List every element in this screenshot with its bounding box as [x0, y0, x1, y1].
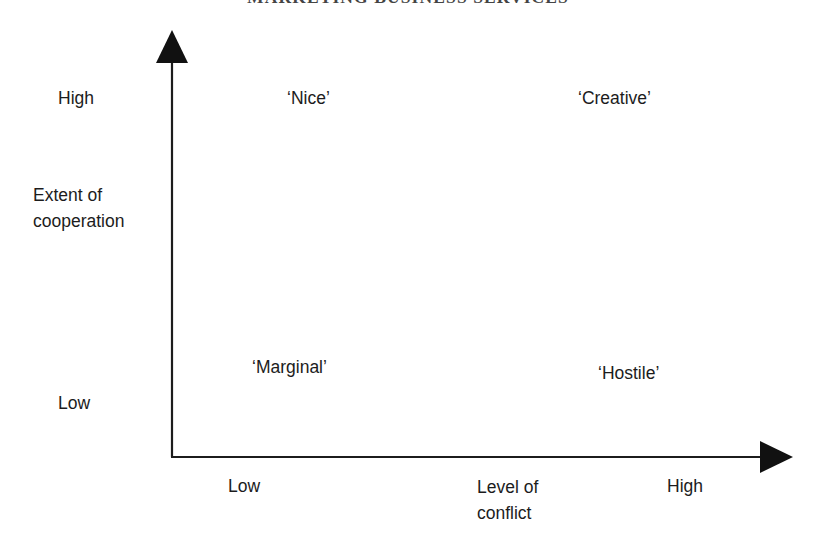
y-axis-title: Extent of cooperation — [33, 182, 124, 234]
diagram-canvas: MARKETING BUSINESS SERVICES High Extent … — [0, 0, 816, 556]
x-axis-arrow-icon — [760, 441, 793, 473]
quadrant-label-nice: ‘Nice’ — [287, 86, 330, 110]
quadrant-label-marginal: ‘Marginal’ — [252, 355, 327, 379]
y-axis-low-label: Low — [58, 390, 90, 416]
quadrant-label-hostile: ‘Hostile’ — [598, 361, 659, 385]
x-axis-high-label: High — [667, 473, 703, 499]
quadrant-label-creative: ‘Creative’ — [578, 86, 651, 110]
running-header: MARKETING BUSINESS SERVICES — [0, 0, 816, 8]
y-axis-high-label: High — [58, 85, 94, 111]
x-axis-title: Level of conflict — [477, 474, 538, 526]
x-axis-low-label: Low — [228, 473, 260, 499]
y-axis-arrow-icon — [156, 30, 188, 63]
